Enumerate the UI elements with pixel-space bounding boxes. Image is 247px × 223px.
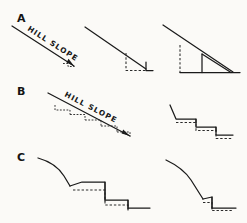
slope-line-a2 xyxy=(85,27,146,69)
arrowhead-b xyxy=(122,130,130,136)
panel-letter-c: C xyxy=(17,151,25,164)
bench-dashes-b3 xyxy=(85,120,101,126)
diagram-two-step-terrace xyxy=(38,158,150,211)
original-surface-b2 xyxy=(176,123,233,139)
diagram-slope-arrow-a: HILL SLOPE xyxy=(12,24,80,66)
diagram-slope-arrow-b: HILL SLOPE xyxy=(48,90,130,137)
bench-dashes-b1 xyxy=(55,105,70,115)
slope-line-a3 xyxy=(163,25,233,72)
terrace-profile-b2 xyxy=(170,105,233,135)
diagram-multi-step-terrace xyxy=(170,105,233,139)
slope-label-b: HILL SLOPE xyxy=(63,90,119,125)
convex-curve-c2 xyxy=(166,160,203,199)
diagram-one-step-terrace xyxy=(166,160,236,211)
bench-riser-a2 xyxy=(146,62,153,71)
terrace-profile-c1 xyxy=(70,182,150,208)
bench-dashes-b4 xyxy=(101,126,117,132)
panel-letter-a: A xyxy=(17,12,26,25)
original-surface-a2 xyxy=(126,53,151,71)
bench-face-a3 xyxy=(202,54,231,73)
slope-label-a: HILL SLOPE xyxy=(26,24,80,63)
diagram-single-large-bench xyxy=(163,25,240,73)
figure-root: A HILL SLOPE B xyxy=(0,0,247,223)
hill-slope-diagram: A HILL SLOPE B xyxy=(0,0,247,223)
bench-dashes-b2 xyxy=(70,115,85,121)
diagram-single-small-bench xyxy=(85,27,153,71)
original-surface-c2 xyxy=(203,203,232,211)
panel-letter-b: B xyxy=(17,85,25,98)
convex-curve-c1 xyxy=(38,158,70,186)
slope-line-b xyxy=(48,93,130,136)
